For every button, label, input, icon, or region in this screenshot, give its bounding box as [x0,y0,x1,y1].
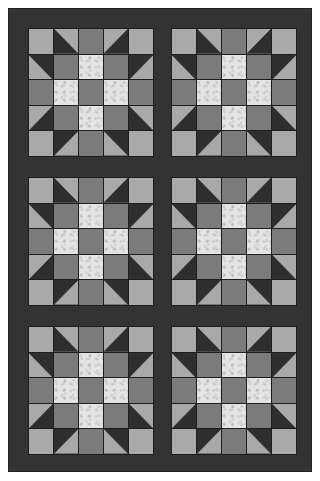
half-square-triangle [104,327,128,352]
medium-square [54,106,78,131]
half-square-triangle [247,429,271,454]
medium-square [247,55,271,80]
medium-square [272,229,296,254]
medium-square [197,404,221,429]
medium-square [104,353,128,378]
triangle-shape [29,204,53,229]
medium-square [79,80,103,105]
print-square [222,353,246,378]
triangle-shape [54,131,78,156]
half-square-triangle [129,204,153,229]
half-square-triangle [247,29,271,54]
triangle-shape [54,327,78,352]
half-square-triangle [29,404,53,429]
medium-square [222,429,246,454]
half-square-triangle [104,178,128,203]
triangle-shape [104,178,128,203]
triangle-shape [197,327,221,352]
half-square-triangle [197,178,221,203]
print-square [79,106,103,131]
triangle-shape [29,353,53,378]
light-square [29,327,53,352]
triangle-shape [272,255,296,280]
half-square-triangle [29,353,53,378]
triangle-shape [172,255,196,280]
half-square-triangle [272,55,296,80]
print-square [197,80,221,105]
medium-square [79,327,103,352]
light-square [29,29,53,54]
half-square-triangle [197,29,221,54]
triangle-shape [129,255,153,280]
half-square-triangle [197,429,221,454]
print-square [222,204,246,229]
medium-square [272,378,296,403]
medium-square [247,353,271,378]
triangle-shape [129,404,153,429]
light-square [129,29,153,54]
medium-square [54,255,78,280]
half-square-triangle [129,255,153,280]
medium-square [129,80,153,105]
medium-square [247,404,271,429]
half-square-triangle [247,280,271,305]
medium-square [247,106,271,131]
half-square-triangle [172,404,196,429]
half-square-triangle [172,353,196,378]
half-square-triangle [172,204,196,229]
light-square [272,280,296,305]
medium-square [197,353,221,378]
medium-square [79,29,103,54]
print-square [54,378,78,403]
triangle-shape [247,131,271,156]
light-square [129,429,153,454]
triangle-shape [29,106,53,131]
print-square [79,55,103,80]
triangle-shape [247,178,271,203]
triangle-shape [272,55,296,80]
quilt-block-r0-c1 [171,28,297,157]
medium-square [129,229,153,254]
medium-square [104,106,128,131]
half-square-triangle [172,55,196,80]
half-square-triangle [129,55,153,80]
light-square [272,178,296,203]
half-square-triangle [29,55,53,80]
light-square [129,327,153,352]
medium-square [129,378,153,403]
medium-square [79,280,103,305]
triangle-shape [172,106,196,131]
half-square-triangle [54,178,78,203]
print-square [104,80,128,105]
medium-square [29,229,53,254]
light-square [129,131,153,156]
half-square-triangle [129,404,153,429]
triangle-shape [272,353,296,378]
medium-square [197,255,221,280]
medium-square [79,131,103,156]
light-square [29,131,53,156]
light-square [272,429,296,454]
print-square [79,353,103,378]
medium-square [104,55,128,80]
triangle-shape [197,29,221,54]
medium-square [79,178,103,203]
half-square-triangle [197,280,221,305]
light-square [172,29,196,54]
print-square [222,106,246,131]
quilt-block-r1-c1 [171,177,297,306]
triangle-shape [54,29,78,54]
half-square-triangle [54,429,78,454]
medium-square [79,429,103,454]
light-square [129,280,153,305]
medium-square [197,106,221,131]
light-square [129,178,153,203]
print-square [54,80,78,105]
triangle-shape [29,55,53,80]
light-square [172,280,196,305]
quilt-block-r0-c0 [28,28,154,157]
half-square-triangle [272,255,296,280]
medium-square [79,229,103,254]
half-square-triangle [272,353,296,378]
medium-square [29,378,53,403]
